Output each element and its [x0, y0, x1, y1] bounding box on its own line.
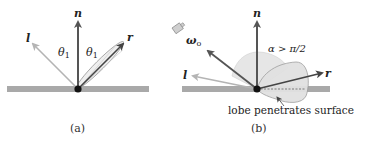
caption-a: (a)	[70, 122, 85, 135]
label-light-a: l	[26, 32, 30, 45]
origin-point-b	[253, 85, 260, 92]
label-normal-b: n	[253, 7, 261, 20]
label-reflect-a: r	[127, 31, 134, 44]
brdf-lobe-figure: n l r θ1 θ1 (a) n	[0, 0, 374, 144]
label-lobe-annotation: lobe penetrates surface	[228, 104, 354, 116]
camera-icon	[172, 21, 186, 34]
label-alpha-condition: α > π/2	[268, 43, 306, 54]
label-normal-a: n	[74, 7, 82, 20]
label-view-omega: ωo	[186, 34, 201, 48]
label-theta-incident: θ1	[58, 46, 70, 60]
specular-lobe-a	[73, 38, 126, 91]
panel-b: n l r ωo α > π/2 lobe penetrates surface…	[172, 7, 354, 135]
light-vector-a	[33, 44, 78, 89]
label-light-b: l	[183, 69, 187, 82]
panel-a: n l r θ1 θ1 (a)	[7, 7, 149, 135]
reflect-vector-a	[78, 44, 123, 89]
label-theta-reflect: θ1	[86, 46, 98, 60]
label-reflect-b: r	[325, 67, 332, 80]
origin-point-a	[74, 85, 81, 92]
caption-b: (b)	[251, 122, 267, 135]
